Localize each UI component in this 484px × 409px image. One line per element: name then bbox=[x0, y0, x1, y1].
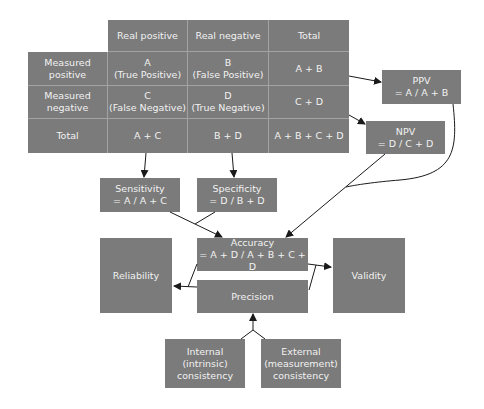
cell-row2-total: C + D bbox=[269, 86, 349, 119]
internal-consistency-box: Internal (intrinsic) consistency bbox=[165, 339, 245, 388]
sensitivity-box: Sensitivity = A / A + C bbox=[100, 178, 180, 212]
npv-box: NPV = D / C + D bbox=[366, 121, 445, 154]
reliability-box: Reliability bbox=[100, 238, 172, 313]
col-header-total: Total bbox=[269, 20, 349, 52]
cell-row1-total: A + B bbox=[269, 52, 349, 86]
validity-box: Validity bbox=[333, 238, 405, 313]
specificity-box: Specificity = D / B + D bbox=[197, 178, 277, 212]
col-header-real-positive: Real positive bbox=[108, 20, 188, 52]
cell-true-positive: A (True Positive) bbox=[108, 52, 188, 86]
row-label-measured-positive: Measured positive bbox=[28, 52, 108, 86]
row-label-total: Total bbox=[28, 119, 108, 153]
ppv-box: PPV = A / A + B bbox=[382, 70, 461, 104]
cell-col2-total: B + D bbox=[188, 119, 269, 153]
cell-true-negative: D (True Negative) bbox=[188, 86, 269, 119]
cell-false-negative: C (False Negative) bbox=[108, 86, 188, 119]
precision-box: Precision bbox=[197, 280, 308, 313]
external-consistency-box: External (measurement) consistency bbox=[261, 339, 341, 388]
row-label-measured-negative: Measured negative bbox=[28, 86, 108, 119]
cell-false-positive: B (False Positive) bbox=[188, 52, 269, 86]
accuracy-box: Accuracy = A + D / A + B + C + D bbox=[197, 238, 308, 271]
cell-grand-total: A + B + C + D bbox=[269, 119, 349, 153]
col-header-real-negative: Real negative bbox=[188, 20, 269, 52]
cell-col1-total: A + C bbox=[108, 119, 188, 153]
